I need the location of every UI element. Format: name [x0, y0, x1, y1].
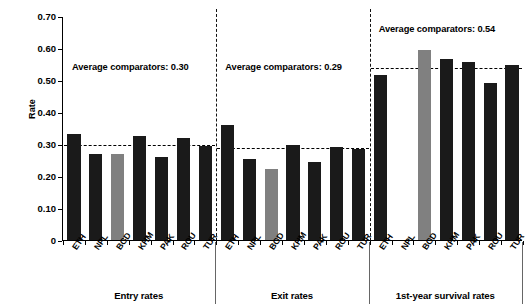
bar-tur-1	[352, 149, 365, 240]
bar-tur-0	[199, 146, 212, 240]
average-comparators-annotation-2: Average comparators: 0.54	[379, 24, 496, 34]
y-tick-mark-0	[58, 241, 62, 242]
panel-title-1: Exit rates	[271, 290, 313, 301]
bar-pak-0	[155, 157, 168, 240]
plot-inner	[63, 17, 522, 240]
y-tick-label-3: 0.30	[18, 140, 56, 150]
bar-npl-0	[89, 154, 102, 240]
bar-rou-1	[330, 147, 343, 240]
bar-rou-0	[177, 138, 190, 240]
x-tick-mark	[216, 241, 217, 245]
bar-khm-2	[440, 59, 453, 240]
x-tick-mark	[435, 241, 436, 245]
panel-title-0: Entry rates	[114, 290, 163, 301]
y-tick-label-4: 0.40	[18, 108, 56, 118]
bar-tur-2	[505, 65, 518, 240]
average-comparators-annotation-0: Average comparators: 0.30	[72, 62, 189, 72]
y-tick-label-1: 0.10	[18, 204, 56, 214]
average-comparators-annotation-1: Average comparators: 0.29	[225, 62, 342, 72]
panel-title-2: 1st-year survival rates	[396, 290, 495, 301]
y-tick-label-6: 0.60	[18, 44, 56, 54]
x-tick-mark	[63, 241, 64, 245]
y-tick-label-0: 0	[18, 236, 56, 246]
bar-bgd-0	[111, 154, 124, 240]
bar-bgd-1	[265, 169, 278, 240]
y-tick-label-7: 0.70	[18, 12, 56, 22]
group-separator-1	[215, 242, 216, 304]
bar-pak-2	[462, 62, 475, 240]
y-tick-label-2: 0.20	[18, 172, 56, 182]
panel-divider-2	[370, 9, 371, 241]
bar-eth-1	[221, 125, 234, 240]
plot-area	[62, 17, 522, 241]
panel-divider-1	[216, 9, 217, 241]
x-tick-mark	[194, 241, 195, 245]
bar-bgd-2	[418, 50, 431, 240]
x-tick-mark	[238, 241, 239, 245]
bar-npl-1	[243, 159, 256, 240]
x-tick-mark	[457, 241, 458, 245]
bar-eth-2	[374, 75, 387, 240]
y-tick-label-5: 0.50	[18, 76, 56, 86]
bar-khm-0	[133, 136, 146, 240]
x-tick-mark	[479, 241, 480, 245]
bar-rou-2	[484, 83, 497, 240]
group-separator-end	[522, 242, 523, 304]
group-separator-2	[369, 242, 370, 304]
bar-eth-0	[67, 134, 80, 240]
bar-pak-1	[308, 162, 321, 240]
bar-chart-figure: Rate 00.100.200.300.400.500.600.70 ETHNP…	[0, 0, 532, 305]
bar-khm-1	[286, 145, 299, 240]
